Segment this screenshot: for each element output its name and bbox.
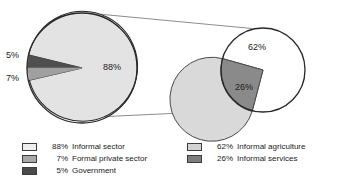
legend-percent: 5% xyxy=(42,165,68,177)
legend-item-informal-agriculture[interactable]: 62% Informal agriculture xyxy=(187,141,305,153)
legend-swatch-icon xyxy=(22,167,37,175)
legend-percent: 62% xyxy=(207,141,233,153)
legend-label: Informal sector xyxy=(72,141,125,153)
legend-item-informal-sector[interactable]: 88% Informal sector xyxy=(22,141,147,153)
legend-percent: 26% xyxy=(207,153,233,165)
legend-swatch-icon xyxy=(22,143,37,151)
pie-left-label-informal-sector: 88% xyxy=(103,62,121,72)
legend-label: Informal services xyxy=(237,153,297,165)
legend-label: Formal private sector xyxy=(72,153,147,165)
legend-item-government[interactable]: 5% Government xyxy=(22,165,147,177)
legend-right: 62% Informal agriculture 26% Informal se… xyxy=(187,141,305,165)
legend-percent: 7% xyxy=(42,153,68,165)
pie-right-label-informal-agriculture: 62% xyxy=(248,42,266,52)
legend-item-informal-services[interactable]: 26% Informal services xyxy=(187,153,305,165)
pie-left-label-government: 5% xyxy=(6,50,19,60)
legend-swatch-icon xyxy=(187,143,202,151)
pie-left-label-formal-private: 7% xyxy=(6,73,19,83)
legend-swatch-icon xyxy=(22,155,37,163)
legend-item-formal-private-sector[interactable]: 7% Formal private sector xyxy=(22,153,147,165)
legend-percent: 88% xyxy=(42,141,68,153)
legend-label: Informal agriculture xyxy=(237,141,305,153)
legend-left: 88% Informal sector 7% Formal private se… xyxy=(22,141,147,177)
pie-right-label-informal-services: 26% xyxy=(235,82,253,92)
legend-swatch-icon xyxy=(187,155,202,163)
legend-label: Government xyxy=(72,165,116,177)
